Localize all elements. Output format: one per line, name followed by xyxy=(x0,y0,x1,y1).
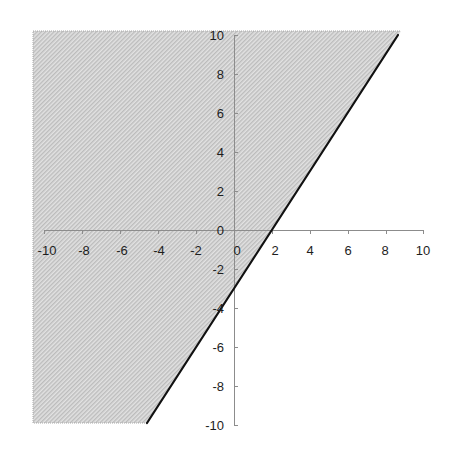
x-tick-label: -8 xyxy=(78,243,90,258)
y-tick-label: -4 xyxy=(212,301,224,316)
x-tick-label: -4 xyxy=(153,243,165,258)
y-tick-label: -10 xyxy=(205,418,224,433)
y-tick-label: 4 xyxy=(217,145,224,160)
x-tick-label: -6 xyxy=(116,243,128,258)
y-tick-label: 2 xyxy=(217,184,224,199)
x-tick-label: -2 xyxy=(190,243,202,258)
y-tick-label: 10 xyxy=(210,28,224,43)
y-tick-label: 8 xyxy=(217,67,224,82)
x-tick-label: 0 xyxy=(233,243,240,258)
x-tick-label: 8 xyxy=(381,243,388,258)
chart-canvas: -10 -8 -6 -4 -2 0 2 4 6 8 10 10 8 6 4 2 … xyxy=(0,0,456,459)
x-tick-label: -10 xyxy=(38,243,57,258)
y-tick-label: -8 xyxy=(212,379,224,394)
y-tick-label: -6 xyxy=(212,340,224,355)
x-tick-label: 10 xyxy=(416,243,430,258)
y-tick-label: 6 xyxy=(217,106,224,121)
y-tick-label: 0 xyxy=(217,223,224,238)
y-tick-label: -2 xyxy=(212,262,224,277)
x-tick-label: 2 xyxy=(271,243,278,258)
x-tick-label: 4 xyxy=(306,243,313,258)
inequality-graph: -10 -8 -6 -4 -2 0 2 4 6 8 10 10 8 6 4 2 … xyxy=(0,0,456,459)
x-tick-label: 6 xyxy=(344,243,351,258)
